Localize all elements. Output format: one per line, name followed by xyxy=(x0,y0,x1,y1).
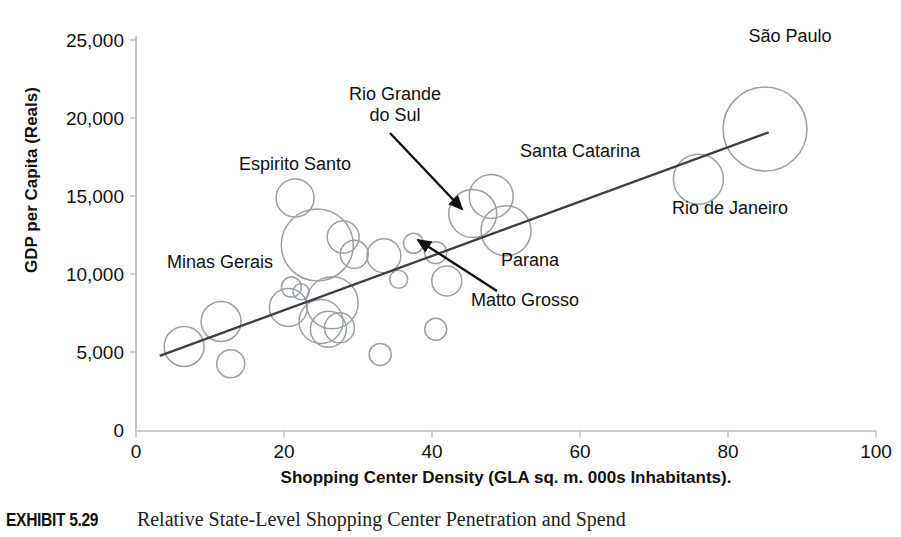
bubble-point xyxy=(299,300,343,344)
y-tick-label-5000: 5,000 xyxy=(22,342,124,364)
exhibit-title: Relative State-Level Shopping Center Pen… xyxy=(137,508,626,531)
x-tick-label-20: 20 xyxy=(254,441,314,463)
bubble-rio-grande-do-sul xyxy=(449,190,497,238)
label-parana: Parana xyxy=(440,250,620,271)
bubble-rio-de-janeiro xyxy=(673,154,723,204)
bubble-point xyxy=(390,270,408,288)
arrow-rio-grande-do-sul xyxy=(390,133,462,209)
label-minas-gerais: Minas Gerais xyxy=(120,252,320,273)
bubble-matto-grosso xyxy=(404,233,424,253)
x-tick-label-40: 40 xyxy=(402,441,462,463)
x-axis-title: Shopping Center Density (GLA sq. m. 000s… xyxy=(136,468,876,488)
bubble-point xyxy=(281,277,301,297)
exhibit-caption: EXHIBIT 5.29 Relative State-Level Shoppi… xyxy=(6,508,896,531)
bubble-point xyxy=(201,302,241,342)
chart-axes xyxy=(130,36,876,437)
y-tick-label-0: 0 xyxy=(22,420,124,442)
bubble-point xyxy=(269,288,307,326)
label-sao-paulo: São Paulo xyxy=(700,26,880,47)
x-tick-label-0: 0 xyxy=(106,441,166,463)
bubble-point xyxy=(367,239,401,273)
x-tick-label-60: 60 xyxy=(550,441,610,463)
bubble-point xyxy=(340,240,368,268)
bubble-point xyxy=(369,343,391,365)
label-santa-catarina: Santa Catarina xyxy=(480,141,680,162)
bubble-santa-catarina xyxy=(469,174,513,218)
bubble-point xyxy=(327,221,359,253)
bubble-sao-paulo xyxy=(723,87,807,171)
exhibit-figure: 25,000 20,000 15,000 10,000 5,000 0 0 20… xyxy=(0,0,901,537)
bubble-point xyxy=(425,318,447,340)
label-rio-de-janeiro: Rio de Janeiro xyxy=(630,198,830,219)
x-tick-label-100: 100 xyxy=(846,441,901,463)
label-rio-grande-do-sul-line2: do Sul xyxy=(305,105,485,126)
label-espirito-santo: Espirito Santo xyxy=(190,154,400,175)
bubble-point xyxy=(217,350,245,378)
label-rio-grande-do-sul-line1: Rio Grande xyxy=(305,84,485,105)
y-axis-title: GDP per Capita (Reals) xyxy=(22,15,42,345)
x-tick-label-80: 80 xyxy=(698,441,758,463)
bubble-series xyxy=(164,87,807,378)
label-matto-grosso: Matto Grosso xyxy=(420,290,630,311)
exhibit-number: EXHIBIT 5.29 xyxy=(6,509,98,531)
bubble-espirito-santo xyxy=(276,179,314,217)
